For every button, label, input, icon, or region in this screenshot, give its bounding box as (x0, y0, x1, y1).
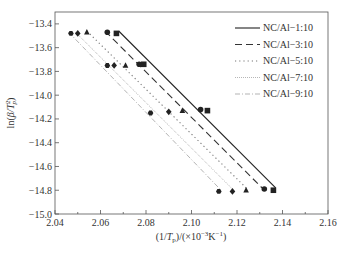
legend-item-label: NC/Al−9:10 (263, 88, 313, 99)
diamond-marker (75, 30, 81, 37)
square-marker (205, 108, 211, 114)
y-tick-label: −14.8 (29, 185, 52, 196)
x-tick-label: 2.12 (228, 217, 246, 228)
legend: NC/Al−1:10NC/Al−3:10NC/Al−5:10NC/Al−7:10… (235, 22, 313, 99)
y-tick-label: −15.0 (29, 209, 52, 220)
diamond-marker (111, 62, 117, 69)
legend-item-label: NC/Al−5:10 (263, 55, 313, 66)
triangle-marker (123, 62, 129, 68)
square-marker (114, 31, 120, 37)
square-marker (271, 187, 277, 193)
legend-item-label: NC/Al−1:10 (263, 22, 313, 33)
y-tick-label: −13.6 (29, 42, 52, 53)
hexagon-marker (68, 31, 74, 36)
y-tick-label: −14.0 (29, 90, 52, 101)
y-tick-label: −14.4 (29, 137, 52, 148)
hexagon-marker (216, 189, 222, 194)
triangle-marker (84, 29, 90, 35)
triangle-marker (243, 187, 249, 193)
y-tick-label: −13.8 (29, 66, 52, 77)
y-tick-label: −14.2 (29, 113, 52, 124)
circle-marker (136, 61, 142, 67)
y-axis: −13.4−13.6−13.8−14.0−14.2−14.4−14.6−14.8… (29, 18, 59, 219)
x-tick-label: 2.06 (92, 217, 110, 228)
fit-lines (69, 31, 276, 190)
hexagon-marker (105, 63, 111, 68)
fit-line (105, 31, 262, 188)
x-tick-label: 2.14 (274, 217, 292, 228)
x-tick-label: 2.10 (183, 217, 201, 228)
x-axis-label: (1/Tp)/(×10−3K−1) (156, 230, 227, 244)
y-axis-label: ln(β/T2p) (4, 98, 18, 129)
legend-item-label: NC/Al−7:10 (263, 72, 313, 83)
data-markers (68, 29, 276, 195)
x-tick-label: 2.16 (319, 217, 337, 228)
circle-marker (262, 186, 268, 192)
y-tick-label: −13.4 (29, 18, 52, 29)
diamond-marker (230, 188, 236, 195)
chart-canvas: 2.042.062.082.102.122.142.16 −13.4−13.6−… (0, 0, 351, 258)
x-tick-label: 2.08 (137, 217, 155, 228)
fit-line (119, 31, 276, 188)
x-axis: 2.042.062.082.102.122.142.16 (46, 210, 337, 228)
circle-marker (198, 107, 204, 113)
circle-marker (105, 29, 111, 35)
y-tick-label: −14.6 (29, 161, 52, 172)
fit-line (87, 31, 246, 188)
legend-item-label: NC/Al−3:10 (263, 39, 313, 50)
